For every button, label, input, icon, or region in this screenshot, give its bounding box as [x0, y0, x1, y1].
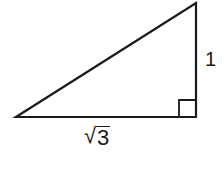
side-length-label-horizontal: √3	[84, 125, 110, 149]
side-length-label-vertical: 1	[205, 49, 216, 69]
triangle-shape	[16, 3, 196, 117]
right-triangle-diagram	[0, 0, 224, 173]
radicand-value: 3	[96, 126, 110, 149]
square-root-symbol: √	[84, 125, 96, 147]
right-angle-marker	[179, 100, 196, 117]
